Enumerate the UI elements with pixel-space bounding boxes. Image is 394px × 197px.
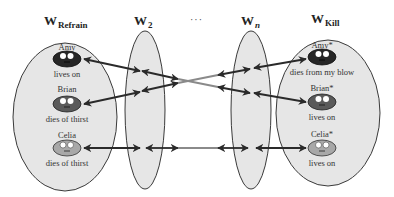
heading-w-2: W2 (134, 12, 153, 28)
face-amy-star (308, 49, 336, 65)
heading-w-kill: WKill (311, 10, 340, 26)
name-amy-star: Amy* (311, 41, 332, 50)
world-2-ellipse (125, 31, 165, 189)
name-brian: Brian (58, 85, 77, 94)
face-celia (53, 140, 81, 156)
fate-brian-star: lives on (309, 113, 336, 122)
fate-celia: dies of thirst (46, 159, 89, 168)
world-n-ellipse (231, 31, 271, 189)
name-amy: Amy (59, 43, 76, 52)
name-brian-star: Brian* (310, 84, 333, 93)
name-celia-star: Celia* (311, 130, 333, 139)
fate-amy-star: dies from my blow (290, 68, 354, 77)
name-celia: Celia (58, 131, 76, 140)
face-brian (53, 96, 81, 112)
fate-celia-star: lives on (309, 159, 336, 168)
heading-w-refrain: WRefrain (44, 12, 88, 28)
face-amy (53, 51, 81, 67)
heading-w-n: Wn (241, 12, 260, 28)
face-brian-star (308, 94, 336, 110)
heading-ellipsis: ··· (190, 14, 203, 25)
face-celia-star (308, 140, 336, 156)
fate-brian: dies of thirst (46, 115, 89, 124)
fate-amy: lives on (54, 70, 81, 79)
